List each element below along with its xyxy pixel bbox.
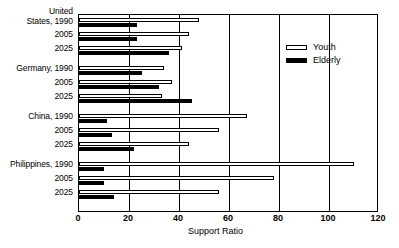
bar-youth <box>79 114 247 118</box>
y-axis-label: 2005 <box>54 174 73 184</box>
y-axis-label: Germany, 1990 <box>16 64 73 74</box>
bar-elderly <box>79 195 114 199</box>
legend-label: Youth <box>313 42 336 53</box>
x-tick-label: 100 <box>320 213 335 224</box>
x-tick-label: 80 <box>273 213 283 224</box>
y-axis-label: United States, 1990 <box>26 7 73 26</box>
x-axis-title-text: Support Ratio <box>188 226 243 236</box>
bar-youth <box>79 32 189 36</box>
y-axis-label: 2005 <box>54 126 73 136</box>
bar-elderly <box>79 99 192 103</box>
x-axis-ticks: 020406080100120 <box>0 213 399 227</box>
bar-elderly <box>79 181 104 185</box>
bar-group <box>79 142 379 153</box>
x-axis-title: Support Ratio <box>0 226 399 237</box>
legend-label: Elderly <box>313 55 341 66</box>
bar-group <box>79 190 379 201</box>
bar-group <box>79 128 379 139</box>
x-tick-label: 120 <box>370 213 385 224</box>
bar-youth <box>79 46 182 50</box>
bar-group <box>79 114 379 125</box>
x-tick-label: 60 <box>223 213 233 224</box>
bar-elderly <box>79 167 104 171</box>
y-axis-label: China, 1990 <box>28 112 73 122</box>
y-axis-label: 2005 <box>54 78 73 88</box>
support-ratio-bar-chart: United States, 199020052025Germany, 1990… <box>0 0 399 248</box>
x-tick-label: 40 <box>173 213 183 224</box>
legend-item: Elderly <box>286 54 376 67</box>
bar-youth <box>79 80 172 84</box>
bar-group <box>79 94 379 105</box>
bar-group <box>79 80 379 91</box>
bar-group <box>79 162 379 173</box>
bar-elderly <box>79 37 137 41</box>
legend-swatch-elderly <box>286 58 307 63</box>
bar-elderly <box>79 71 142 75</box>
bar-group <box>79 66 379 77</box>
bar-youth <box>79 190 219 194</box>
bar-youth <box>79 128 219 132</box>
x-tick-label: 20 <box>123 213 133 224</box>
bar-elderly <box>79 119 107 123</box>
legend-item: Youth <box>286 41 376 54</box>
bar-youth <box>79 176 274 180</box>
y-axis-labels: United States, 199020052025Germany, 1990… <box>0 14 76 212</box>
y-axis-label: 2025 <box>54 140 73 150</box>
legend-swatch-youth <box>286 45 307 50</box>
x-tick-label: 0 <box>75 213 80 224</box>
bar-youth <box>79 142 189 146</box>
bar-elderly <box>79 85 159 89</box>
bar-youth <box>79 94 162 98</box>
bar-elderly <box>79 23 137 27</box>
y-axis-label: 2025 <box>54 188 73 198</box>
bar-elderly <box>79 147 134 151</box>
bar-group <box>79 176 379 187</box>
bar-elderly <box>79 51 169 55</box>
y-axis-label: 2025 <box>54 92 73 102</box>
bar-youth <box>79 66 164 70</box>
y-axis-label: 2025 <box>54 44 73 54</box>
y-axis-label: 2005 <box>54 30 73 40</box>
bar-group <box>79 18 379 29</box>
bar-youth <box>79 162 354 166</box>
bar-youth <box>79 18 199 22</box>
bar-elderly <box>79 133 112 137</box>
y-axis-label: Philippines, 1990 <box>10 160 73 170</box>
chart-legend: YouthElderly <box>286 41 376 67</box>
